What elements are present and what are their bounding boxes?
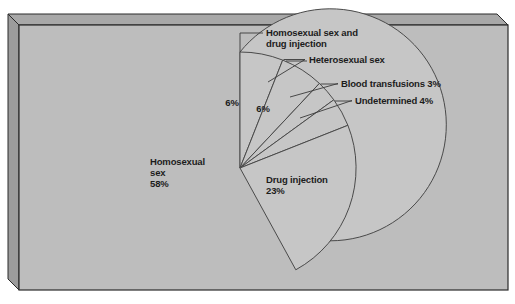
- label-drug-injection-value: 23%: [266, 185, 285, 196]
- label-drug-injection-line1: Drug injection: [266, 174, 328, 185]
- value-label-heterosexual: 6%: [256, 103, 270, 114]
- label-blood-transfusions: Blood transfusions 3%: [341, 78, 441, 89]
- label-homosexual-sex-value: 58%: [150, 178, 169, 189]
- label-homosexual-sex-line1: Homosexual: [150, 156, 205, 167]
- panel-left-bevel: [8, 14, 19, 290]
- value-label-homosexual-and-drug: 6%: [225, 97, 239, 108]
- label-homosexual-and-drug-line1: Homosexual sex and: [266, 27, 358, 38]
- label-homosexual-and-drug-line2: drug injection: [266, 38, 327, 49]
- label-homosexual-sex-line2: sex: [150, 167, 166, 178]
- panel-top-bevel: [8, 14, 508, 25]
- pie-chart-svg: Homosexual sex and drug injection Hetero…: [0, 0, 515, 304]
- label-heterosexual-sex: Heterosexual sex: [309, 54, 386, 65]
- label-undetermined: Undetermined 4%: [355, 95, 434, 106]
- pie-chart-figure: Homosexual sex and drug injection Hetero…: [0, 0, 515, 304]
